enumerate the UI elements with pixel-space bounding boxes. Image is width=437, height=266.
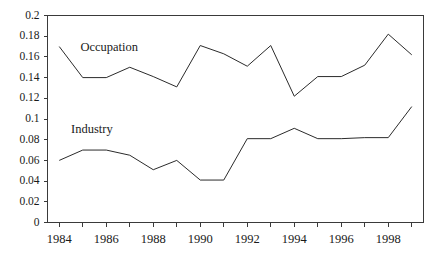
y-tick-label: 0.14 — [19, 71, 39, 83]
y-tick-label: 0.18 — [19, 29, 39, 41]
series-line-industry — [59, 107, 412, 180]
series-label-industry: Industry — [71, 122, 113, 136]
x-axis-tick-labels: 19841986198819901992199419961998 — [47, 232, 401, 246]
y-tick-label: 0.08 — [19, 133, 39, 145]
x-tick-label: 1992 — [235, 232, 260, 246]
series-inline-labels: OccupationIndustry — [71, 40, 139, 136]
x-tick-label: 1996 — [329, 232, 354, 246]
x-tick-label: 1994 — [282, 232, 308, 246]
x-axis-tick-marks — [59, 223, 412, 227]
x-tick-label: 1990 — [188, 232, 213, 246]
series-label-occupation: Occupation — [80, 40, 138, 54]
y-tick-label: 0.2 — [25, 9, 40, 21]
y-tick-label: 0.12 — [19, 91, 39, 103]
y-tick-label: 0.06 — [19, 154, 39, 166]
y-tick-label: 0.02 — [19, 195, 39, 207]
x-tick-label: 1988 — [141, 232, 166, 246]
y-tick-label: 0.16 — [19, 50, 39, 62]
y-axis-tick-marks — [44, 16, 48, 223]
y-axis-tick-labels: 00.020.040.060.080.10.120.140.160.180.2 — [19, 9, 39, 228]
data-series-lines — [59, 34, 412, 180]
x-tick-label: 1998 — [376, 232, 401, 246]
x-tick-label: 1984 — [47, 232, 73, 246]
y-tick-label: 0.1 — [25, 112, 40, 124]
y-tick-label: 0.04 — [19, 174, 39, 186]
y-tick-label: 0 — [34, 216, 40, 228]
line-chart-figure: 00.020.040.060.080.10.120.140.160.180.2 … — [0, 0, 437, 266]
x-tick-label: 1986 — [94, 232, 119, 246]
chart-canvas: 00.020.040.060.080.10.120.140.160.180.2 … — [0, 0, 437, 266]
